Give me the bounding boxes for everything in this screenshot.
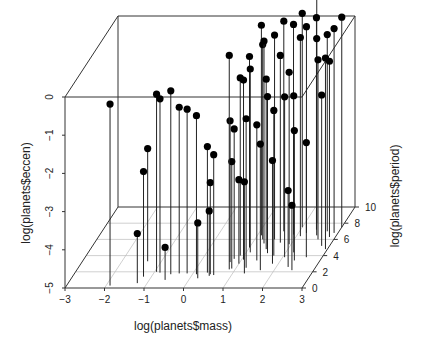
y-tick-label: 0 bbox=[312, 283, 318, 294]
data-point bbox=[257, 141, 264, 148]
data-point bbox=[167, 87, 174, 94]
data-point bbox=[193, 112, 200, 119]
data-point bbox=[240, 77, 247, 84]
data-point bbox=[247, 65, 254, 72]
data-point bbox=[264, 93, 271, 100]
x-axis-ticks: −3−2−10123 bbox=[59, 288, 305, 305]
data-point bbox=[299, 10, 306, 17]
data-point bbox=[291, 127, 298, 134]
y-tick-label: 10 bbox=[365, 202, 377, 213]
x-tick-label: 0 bbox=[181, 294, 187, 305]
box-edge bbox=[302, 207, 355, 288]
data-point bbox=[176, 104, 183, 111]
data-point bbox=[324, 31, 331, 38]
z-tick-label: −1 bbox=[44, 129, 55, 141]
data-point bbox=[194, 219, 201, 226]
x-tick-label: −2 bbox=[99, 294, 111, 305]
x-tick-label: −1 bbox=[138, 294, 150, 305]
z-tick-label: −2 bbox=[44, 167, 55, 179]
data-point bbox=[322, 55, 329, 62]
data-point bbox=[297, 34, 304, 41]
data-point bbox=[106, 101, 113, 108]
x-tick-label: 1 bbox=[220, 294, 226, 305]
y-axis-title: log(planets$period) bbox=[388, 145, 402, 248]
y-tick-label: 8 bbox=[354, 218, 360, 229]
data-point bbox=[226, 117, 233, 124]
data-point bbox=[271, 31, 278, 38]
data-point bbox=[210, 151, 217, 158]
data-point bbox=[313, 35, 320, 42]
data-point bbox=[338, 14, 345, 21]
data-point bbox=[270, 107, 277, 114]
data-point bbox=[303, 23, 310, 30]
data-point bbox=[253, 121, 260, 128]
data-point bbox=[314, 56, 321, 63]
data-point bbox=[330, 25, 337, 32]
z-tick-label: −3 bbox=[44, 205, 55, 217]
y-tick-label: 4 bbox=[333, 251, 339, 262]
y-tick-label: 2 bbox=[323, 267, 329, 278]
data-points bbox=[106, 0, 345, 286]
x-tick-label: 2 bbox=[260, 294, 266, 305]
data-point bbox=[286, 69, 293, 76]
data-point bbox=[206, 207, 213, 214]
data-point bbox=[263, 76, 270, 83]
grid-line bbox=[105, 207, 158, 288]
data-point bbox=[231, 125, 238, 132]
data-point bbox=[243, 115, 250, 122]
data-point bbox=[204, 143, 211, 150]
z-axis-title: log(planets$eccen) bbox=[19, 142, 33, 243]
data-point bbox=[269, 157, 276, 164]
data-point bbox=[134, 230, 141, 237]
x-tick-label: −3 bbox=[59, 294, 71, 305]
z-tick-label: 0 bbox=[44, 94, 55, 100]
data-point bbox=[277, 52, 284, 59]
y-tick-label: 6 bbox=[344, 234, 350, 245]
data-point bbox=[281, 93, 288, 100]
scatter3d-chart: −3−2−10123 0246810 −5−4−3−2−10 log(plane… bbox=[0, 0, 424, 350]
x-tick-label: 3 bbox=[299, 294, 305, 305]
data-point bbox=[258, 22, 265, 29]
data-point bbox=[290, 92, 297, 99]
z-tick-label: −5 bbox=[44, 282, 55, 294]
data-point bbox=[318, 91, 325, 98]
data-point bbox=[241, 178, 248, 185]
z-axis-ticks: −5−4−3−2−10 bbox=[44, 94, 65, 294]
data-point bbox=[285, 187, 292, 194]
data-point bbox=[280, 18, 287, 25]
data-point bbox=[246, 53, 253, 60]
x-axis-title: log(planets$mass) bbox=[134, 319, 232, 333]
data-point bbox=[313, 14, 320, 21]
z-tick-label: −4 bbox=[44, 244, 55, 256]
data-point bbox=[207, 179, 214, 186]
y-axis-ticks: 0246810 bbox=[302, 202, 377, 294]
data-point bbox=[156, 95, 163, 102]
box-edge bbox=[65, 16, 118, 97]
data-point bbox=[162, 244, 169, 251]
data-point bbox=[288, 202, 295, 209]
data-point bbox=[140, 168, 147, 175]
data-point bbox=[226, 52, 233, 59]
data-point bbox=[260, 37, 267, 44]
data-point bbox=[303, 139, 310, 146]
data-point bbox=[144, 145, 151, 152]
data-point bbox=[290, 21, 297, 28]
data-point bbox=[184, 106, 191, 113]
